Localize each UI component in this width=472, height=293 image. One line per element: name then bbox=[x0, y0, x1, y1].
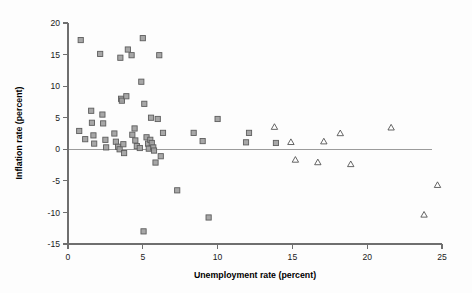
x-axis-tick-label: 15 bbox=[288, 252, 298, 262]
data-point-square bbox=[141, 229, 146, 234]
data-point-square bbox=[104, 145, 109, 150]
data-point-square bbox=[139, 79, 144, 84]
data-point-square bbox=[243, 140, 248, 145]
y-axis-tick-label: -15 bbox=[48, 239, 61, 249]
data-point-square bbox=[122, 150, 127, 155]
data-point-square bbox=[91, 133, 96, 138]
data-point-triangle bbox=[321, 138, 327, 144]
data-point-square bbox=[132, 126, 137, 131]
data-point-square bbox=[273, 140, 278, 145]
data-point-square bbox=[83, 137, 88, 142]
y-axis-tick-label: 10 bbox=[50, 81, 60, 91]
data-point-square bbox=[118, 55, 123, 60]
data-point-triangle bbox=[315, 159, 321, 165]
data-point-square bbox=[124, 94, 129, 99]
data-point-square bbox=[142, 101, 147, 106]
y-axis-tick-label: 20 bbox=[50, 18, 60, 28]
data-point-triangle bbox=[388, 124, 394, 130]
data-point-triangle bbox=[337, 130, 343, 136]
data-points bbox=[77, 36, 441, 234]
y-axis-tick-label: -10 bbox=[48, 208, 61, 218]
data-point-triangle bbox=[348, 161, 354, 167]
data-point-square bbox=[103, 137, 108, 142]
data-point-square bbox=[77, 128, 82, 133]
y-axis-tick-label: 5 bbox=[55, 113, 60, 123]
data-point-square bbox=[246, 130, 251, 135]
data-point-triangle bbox=[421, 212, 427, 218]
data-point-square bbox=[133, 138, 138, 143]
data-point-square bbox=[89, 108, 94, 113]
data-point-square bbox=[140, 36, 145, 41]
data-point-square bbox=[101, 121, 106, 126]
data-point-square bbox=[206, 215, 211, 220]
data-point-square bbox=[191, 130, 196, 135]
data-point-square bbox=[153, 160, 158, 165]
y-axis: -15-10-505101520 bbox=[48, 18, 68, 249]
data-point-square bbox=[129, 53, 134, 58]
data-point-square bbox=[137, 145, 142, 150]
x-axis-tick-label: 25 bbox=[437, 252, 447, 262]
chart-canvas: -15-10-505101520 0510152025 Unemployment… bbox=[0, 0, 472, 293]
x-axis: 0510152025 bbox=[66, 244, 447, 262]
data-point-square bbox=[215, 116, 220, 121]
x-axis-tick-label: 0 bbox=[66, 252, 71, 262]
data-point-square bbox=[92, 141, 97, 146]
data-point-square bbox=[100, 112, 105, 117]
y-axis-tick-label: -5 bbox=[52, 176, 60, 186]
x-axis-tick-label: 5 bbox=[140, 252, 145, 262]
data-point-triangle bbox=[292, 157, 298, 163]
data-point-triangle bbox=[271, 124, 277, 130]
data-point-square bbox=[98, 51, 103, 56]
data-point-square bbox=[157, 53, 162, 58]
data-point-square bbox=[125, 47, 130, 52]
data-point-square bbox=[160, 130, 165, 135]
scatter-plot-figure: -15-10-505101520 0510152025 Unemployment… bbox=[0, 0, 472, 293]
y-axis-title: Inflation rate (percent) bbox=[14, 87, 24, 180]
y-axis-tick-label: 0 bbox=[55, 144, 60, 154]
data-point-triangle bbox=[434, 182, 440, 188]
data-point-square bbox=[112, 131, 117, 136]
x-axis-tick-label: 10 bbox=[213, 252, 223, 262]
data-point-square bbox=[200, 138, 205, 143]
data-point-square bbox=[113, 139, 118, 144]
data-point-square bbox=[89, 120, 94, 125]
data-point-square bbox=[130, 132, 135, 137]
data-point-square bbox=[155, 116, 160, 121]
data-point-triangle bbox=[288, 139, 294, 145]
data-point-square bbox=[158, 154, 163, 159]
data-point-square bbox=[175, 188, 180, 193]
data-point-square bbox=[121, 142, 126, 147]
y-axis-tick-label: 15 bbox=[50, 50, 60, 60]
data-point-square bbox=[78, 37, 83, 42]
x-axis-tick-label: 20 bbox=[362, 252, 372, 262]
x-axis-title: Unemployment rate (percent) bbox=[194, 270, 316, 280]
data-point-square bbox=[148, 115, 153, 120]
data-point-square bbox=[151, 148, 156, 153]
